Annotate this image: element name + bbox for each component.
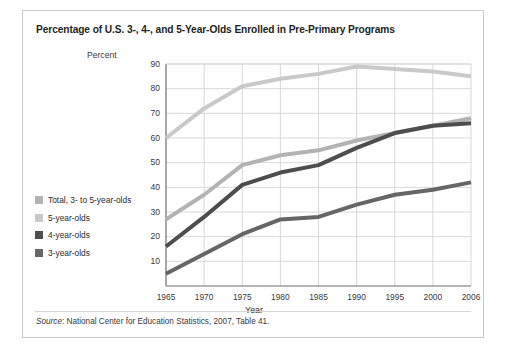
- x-axis-label: Year: [23, 305, 485, 315]
- source-text: : National Center for Education Statisti…: [62, 317, 269, 326]
- legend-label-4-year-olds: 4-year-olds: [48, 230, 90, 241]
- source-note: Source: National Center for Education St…: [36, 317, 269, 326]
- legend-item-4-year-olds: 4-year-olds: [35, 230, 143, 241]
- figure-panel: Percentage of U.S. 3-, 4-, and 5-Year-Ol…: [22, 10, 484, 338]
- source-divider: [35, 311, 471, 312]
- x-tick-label: 2000: [413, 292, 453, 302]
- legend-swatch-total: [35, 196, 43, 204]
- x-tick-label: 2006: [451, 292, 491, 302]
- legend-item-total: Total, 3- to 5-year-olds: [35, 195, 143, 206]
- legend-swatch-5-year-olds: [35, 214, 43, 222]
- y-tick-label: 40: [138, 182, 160, 192]
- legend-swatch-4-year-olds: [35, 231, 43, 239]
- x-tick-label: 1965: [146, 292, 186, 302]
- x-tick-label: 1985: [299, 292, 339, 302]
- chart-svg: [23, 11, 485, 339]
- x-tick-label: 1970: [184, 292, 224, 302]
- legend-label-total: Total, 3- to 5-year-olds: [48, 195, 131, 206]
- legend-label-3-year-olds: 3-year-olds: [48, 248, 90, 259]
- y-tick-label: 60: [138, 133, 160, 143]
- legend-item-3-year-olds: 3-year-olds: [35, 248, 143, 259]
- plot-area: [23, 11, 485, 339]
- y-tick-label: 90: [138, 59, 160, 69]
- x-tick-label: 1975: [222, 292, 262, 302]
- y-tick-label: 30: [138, 207, 160, 217]
- chart-legend: Total, 3- to 5-year-olds 5-year-olds 4-y…: [35, 195, 143, 265]
- source-label: Source: [36, 317, 62, 326]
- y-tick-label: 10: [138, 256, 160, 266]
- y-tick-label: 50: [138, 157, 160, 167]
- y-tick-label: 20: [138, 231, 160, 241]
- legend-label-5-year-olds: 5-year-olds: [48, 213, 90, 224]
- y-tick-label: 80: [138, 83, 160, 93]
- legend-swatch-3-year-olds: [35, 249, 43, 257]
- x-tick-label: 1980: [260, 292, 300, 302]
- x-tick-label: 1995: [375, 292, 415, 302]
- x-tick-label: 1990: [337, 292, 377, 302]
- legend-item-5-year-olds: 5-year-olds: [35, 213, 143, 224]
- y-tick-label: 70: [138, 108, 160, 118]
